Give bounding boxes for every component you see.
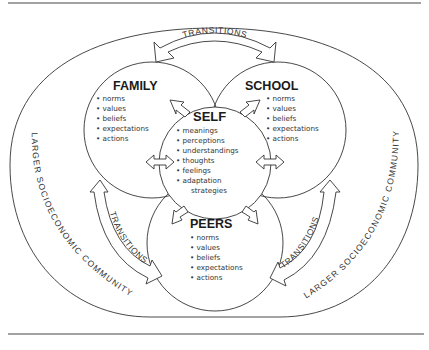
school-item: • expectations xyxy=(266,124,319,133)
self-title: SELF xyxy=(193,109,226,124)
peers-item: • expectations xyxy=(190,263,243,272)
self-peers-arrow-left xyxy=(172,206,188,224)
family-item: • expectations xyxy=(96,124,149,133)
school-items: • norms • values • beliefs • expectation… xyxy=(266,94,319,143)
family-title: FAMILY xyxy=(113,79,158,93)
family-item: • actions xyxy=(96,134,129,143)
school-title: SCHOOL xyxy=(245,79,299,93)
self-family-arrow-upper xyxy=(170,100,190,117)
family-item: • norms xyxy=(96,94,125,103)
self-item: • adaptation xyxy=(176,176,221,185)
peers-item: • beliefs xyxy=(190,253,220,262)
peers-title: PEERS xyxy=(190,217,232,231)
school-item: • actions xyxy=(266,134,299,143)
peers-items: • norms • values • beliefs • expectation… xyxy=(190,233,243,282)
transition-arrow-top xyxy=(154,33,276,62)
self-item: • meanings xyxy=(176,126,218,135)
self-item: • understandings xyxy=(176,146,239,155)
self-item-continuation: strategies xyxy=(191,186,227,195)
community-label-left: LARGER SOCIOECONOMIC COMMUNITY xyxy=(30,132,135,298)
community-label-right: LARGER SOCIOECONOMIC COMMUNITY xyxy=(302,130,401,300)
self-peers-arrow-right xyxy=(242,206,258,224)
peers-item: • norms xyxy=(190,233,219,242)
peers-item: • values xyxy=(190,243,220,252)
family-items: • norms • values • beliefs • expectation… xyxy=(96,94,149,143)
family-item: • beliefs xyxy=(96,114,126,123)
family-item: • values xyxy=(96,104,126,113)
school-item: • values xyxy=(266,104,296,113)
school-item: • beliefs xyxy=(266,114,296,123)
self-item: • perceptions xyxy=(176,136,225,145)
self-item: • feelings xyxy=(176,166,211,175)
peers-item: • actions xyxy=(190,273,223,282)
self-school-arrow-upper xyxy=(240,100,260,117)
multiple-worlds-diagram: TRANSITIONS TRANSITIONS TRANSITIONS LARG… xyxy=(0,0,429,350)
self-item: • thoughts xyxy=(176,156,215,165)
school-item: • norms xyxy=(266,94,295,103)
